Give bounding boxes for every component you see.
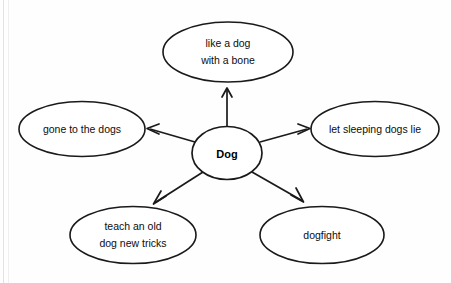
- node-label-right-line1: let sleeping dogs lie: [329, 123, 421, 135]
- node-label-left-line1: gone to the dogs: [43, 123, 121, 135]
- node-like-a-dog-with-a-bone[interactable]: like a dog with a bone: [163, 22, 293, 82]
- node-center-dog[interactable]: Dog: [192, 127, 262, 180]
- node-ellipse-bottom-left: [70, 207, 196, 264]
- diagram-canvas: like a dog with a bone gone to the dogs …: [0, 0, 451, 283]
- node-label-center: Dog: [216, 148, 237, 160]
- node-ellipse-top: [163, 22, 293, 82]
- node-label-top-line1: like a dog: [206, 37, 251, 49]
- arrowhead-bottom-left-icon: [154, 191, 167, 204]
- connector-center-to-right: [260, 129, 307, 142]
- node-label-top-line2: with a bone: [200, 54, 255, 66]
- node-label-bottom-left-line1: teach an old: [104, 220, 161, 232]
- node-gone-to-the-dogs[interactable]: gone to the dogs: [19, 102, 145, 157]
- node-let-sleeping-dogs-lie[interactable]: let sleeping dogs lie: [311, 102, 439, 157]
- node-dogfight[interactable]: dogfight: [260, 207, 384, 264]
- node-teach-an-old-dog-new-tricks[interactable]: teach an old dog new tricks: [70, 207, 196, 264]
- connector-center-to-left: [150, 129, 195, 142]
- node-label-bottom-left-line2: dog new tricks: [99, 237, 166, 249]
- word-web-diagram: like a dog with a bone gone to the dogs …: [0, 0, 451, 283]
- node-label-bottom-right-line1: dogfight: [303, 229, 340, 241]
